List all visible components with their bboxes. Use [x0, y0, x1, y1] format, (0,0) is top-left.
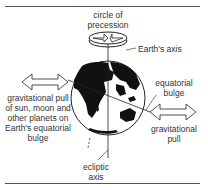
circle-of-precession-label: circle of precession: [80, 10, 136, 30]
earth-globe-icon: [68, 40, 150, 158]
ecliptic-axis-leader: [98, 150, 108, 160]
earths-axis-leader: [126, 48, 136, 50]
gravitational-pull-left-label: gravitational pull of sun, moon and othe…: [4, 93, 72, 143]
gravitational-pull-right-label: gravitational pull: [148, 124, 200, 144]
equatorial-bulge-label: equatorial bulge: [150, 78, 198, 98]
left-double-arrow-icon: [22, 74, 68, 90]
right-double-arrow-icon: [150, 104, 196, 120]
ecliptic-axis-label: ecliptic axis: [78, 162, 114, 182]
earths-axis-label: Earth's axis: [138, 44, 182, 54]
